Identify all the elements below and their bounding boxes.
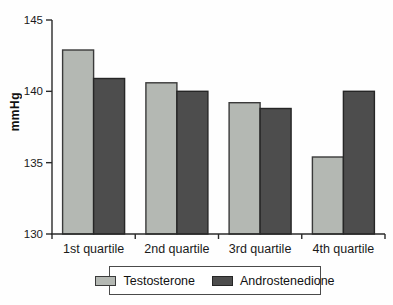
bar-testosterone-1 — [63, 50, 94, 234]
figure: 1st quartile2nd quartile3rd quartile4th … — [0, 0, 393, 305]
y-tick-label: 135 — [24, 157, 43, 169]
bar-androstenedione-2 — [177, 91, 208, 234]
y-tick-label: 145 — [24, 14, 43, 26]
bar-androstenedione-4 — [343, 91, 374, 234]
bar-chart: 1st quartile2nd quartile3rd quartile4th … — [0, 0, 393, 305]
x-category-label: 4th quartile — [312, 242, 374, 256]
bar-testosterone-2 — [146, 83, 177, 234]
x-category-label: 1st quartile — [63, 242, 124, 256]
legend-swatch-testosterone — [95, 276, 116, 286]
y-axis-title: mmHg — [8, 92, 22, 131]
bar-androstenedione-3 — [260, 109, 291, 235]
bar-testosterone-4 — [312, 157, 343, 234]
y-tick-label: 130 — [24, 228, 43, 240]
legend-item-androstenedione: Androstenedione — [212, 274, 335, 288]
bar-testosterone-3 — [229, 103, 260, 234]
x-category-label: 3rd quartile — [229, 242, 292, 256]
legend-label-androstenedione: Androstenedione — [240, 274, 335, 288]
legend-swatch-androstenedione — [212, 276, 233, 286]
x-category-label: 2nd quartile — [144, 242, 209, 256]
bar-androstenedione-1 — [94, 79, 125, 235]
legend: Testosterone Androstenedione — [109, 266, 321, 295]
y-tick-label: 140 — [24, 85, 43, 97]
legend-item-testosterone: Testosterone — [95, 274, 195, 288]
legend-label-testosterone: Testosterone — [123, 274, 195, 288]
